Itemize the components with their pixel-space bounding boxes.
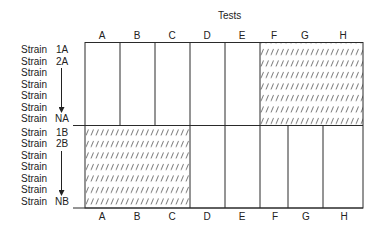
hatched-region-group-b-abc	[86, 126, 190, 208]
strain-test-grid	[0, 0, 380, 231]
hatched-region-group-a-fgh	[260, 43, 363, 125]
